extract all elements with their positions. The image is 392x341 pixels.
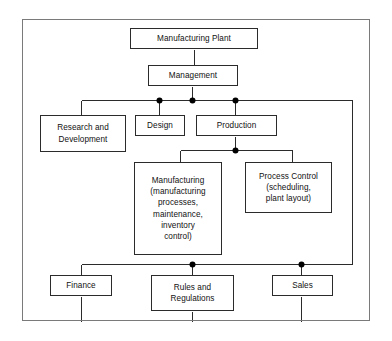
node-sales[interactable]: Sales bbox=[272, 275, 333, 296]
node-label: Sales bbox=[273, 280, 332, 291]
node-label: Manufacturing Plant bbox=[131, 33, 257, 44]
node-finance[interactable]: Finance bbox=[50, 275, 112, 296]
node-process-control[interactable]: Process Control (scheduling, plant layou… bbox=[245, 162, 332, 213]
node-label: Process Control (scheduling, plant layou… bbox=[246, 171, 331, 205]
node-label: Design bbox=[136, 120, 184, 131]
node-management[interactable]: Management bbox=[148, 65, 238, 86]
node-label: Research and Development bbox=[41, 122, 125, 145]
node-design[interactable]: Design bbox=[135, 115, 185, 136]
node-production[interactable]: Production bbox=[196, 115, 277, 136]
node-label: Production bbox=[197, 120, 276, 131]
node-manufacturing-plant[interactable]: Manufacturing Plant bbox=[130, 28, 258, 49]
node-rules-and-regulations[interactable]: Rules and Regulations bbox=[151, 275, 234, 311]
node-label: Finance bbox=[51, 280, 111, 291]
node-label: Rules and Regulations bbox=[152, 282, 233, 305]
node-manufacturing[interactable]: Manufacturing (manufacturing processes, … bbox=[134, 162, 222, 255]
node-research-and-development[interactable]: Research and Development bbox=[40, 115, 126, 152]
node-label: Management bbox=[149, 70, 237, 81]
diagram-canvas: Manufacturing Plant Management Research … bbox=[0, 0, 392, 341]
node-label: Manufacturing (manufacturing processes, … bbox=[135, 175, 221, 243]
